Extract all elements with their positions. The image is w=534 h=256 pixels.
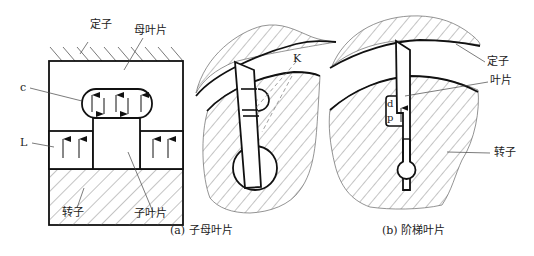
label-rotor-a: 转子	[62, 207, 84, 219]
label-d: d	[387, 98, 393, 110]
label-chamber-l: L	[20, 137, 27, 149]
stator-hatch	[50, 47, 183, 61]
caption-a: (a) 子母叶片	[170, 225, 233, 237]
figure-b-stepped-vane	[329, 16, 490, 209]
label-chamber-c: c	[20, 82, 26, 94]
label-vane-b: 叶片	[490, 75, 512, 87]
label-stator-a: 定子	[90, 19, 112, 31]
figure-a-mother-child-vane	[30, 38, 183, 226]
caption-b: (b) 阶梯叶片	[382, 225, 445, 237]
label-stator-b: 定子	[487, 56, 509, 68]
label-p: p	[387, 112, 393, 124]
label-rotor-b: 转子	[494, 147, 516, 159]
label-mother-vane: 母叶片	[134, 25, 167, 37]
label-child-vane: 子叶片	[134, 208, 167, 220]
figure-middle-vane-with-k	[196, 25, 336, 213]
label-k: K	[293, 53, 301, 65]
